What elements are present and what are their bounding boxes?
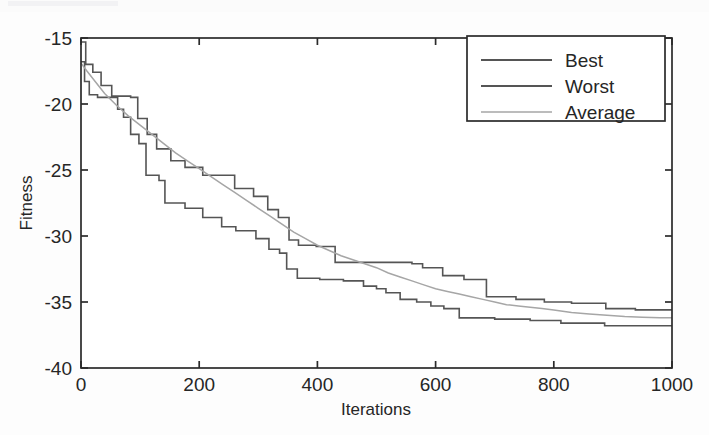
x-tick-label: 600 bbox=[420, 374, 452, 395]
x-tick-label: 400 bbox=[302, 374, 334, 395]
x-tick-label: 800 bbox=[538, 374, 570, 395]
x-tick-label: 200 bbox=[183, 374, 215, 395]
y-tick-label: -30 bbox=[45, 226, 72, 247]
y-tick-labels: -15-20-25-30-35-40 bbox=[45, 28, 72, 379]
legend-label-worst: Worst bbox=[565, 76, 615, 97]
x-tick-labels: 02004006008001000 bbox=[76, 374, 693, 395]
x-tick-label: 0 bbox=[76, 374, 87, 395]
legend-label-best: Best bbox=[565, 50, 604, 71]
scan-artifact-band bbox=[0, 0, 709, 12]
fitness-convergence-chart: 02004006008001000 -15-20-25-30-35-40 Ite… bbox=[0, 0, 709, 435]
legend-label-average: Average bbox=[565, 102, 635, 123]
y-tick-label: -15 bbox=[45, 28, 72, 49]
scan-artifact-smudge bbox=[8, 1, 118, 6]
y-axis-title: Fitness bbox=[17, 176, 36, 231]
chart-legend[interactable]: BestWorstAverage bbox=[467, 36, 665, 123]
figure-canvas: 02004006008001000 -15-20-25-30-35-40 Ite… bbox=[0, 0, 709, 435]
x-tick-label: 1000 bbox=[651, 374, 693, 395]
y-tick-label: -20 bbox=[45, 94, 72, 115]
y-tick-label: -35 bbox=[45, 292, 72, 313]
x-axis-title: Iterations bbox=[341, 400, 411, 419]
y-tick-label: -40 bbox=[45, 358, 72, 379]
y-tick-label: -25 bbox=[45, 160, 72, 181]
